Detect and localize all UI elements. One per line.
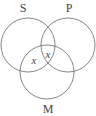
set-s-label: S: [20, 1, 27, 15]
venn-diagram: S P M x x: [0, 0, 96, 116]
set-p-label: P: [66, 1, 73, 15]
mark-s-m-region: x: [31, 54, 37, 66]
set-m-label: M: [43, 102, 54, 116]
mark-s-p-m-region: x: [45, 48, 51, 60]
